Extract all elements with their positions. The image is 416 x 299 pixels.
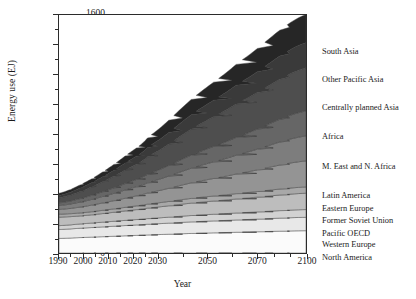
x-tick-label: 2070 xyxy=(235,257,279,267)
legend-label: South Asia xyxy=(322,48,359,56)
legend-label: Centrally planned Asia xyxy=(322,104,399,112)
x-tick-minor xyxy=(232,254,233,257)
legend-label: Eastern Europe xyxy=(322,205,373,213)
stacked-area-series xyxy=(59,15,306,253)
legend-label: Africa xyxy=(322,133,343,141)
legend-label: Latin America xyxy=(322,192,370,200)
plot-area xyxy=(58,14,307,254)
legend-label: Western Europe xyxy=(322,241,376,249)
x-tick-label: 2030 xyxy=(136,257,180,267)
legend-label: M. East and N. Africa xyxy=(322,163,396,171)
legend-label: North America xyxy=(322,254,372,262)
legend-label: Former Soviet Union xyxy=(322,217,393,225)
legend-label: Pacific OECD xyxy=(322,230,370,238)
legend-label: Other Pacific Asia xyxy=(322,76,383,84)
x-axis-title: Year xyxy=(58,279,307,289)
y-axis-title: Energy use (EJ) xyxy=(7,31,17,151)
x-tick-label: 2050 xyxy=(185,257,229,267)
chart-figure: Energy use (EJ) 020040060080010001200140… xyxy=(0,0,416,299)
x-tick-minor xyxy=(183,254,184,257)
